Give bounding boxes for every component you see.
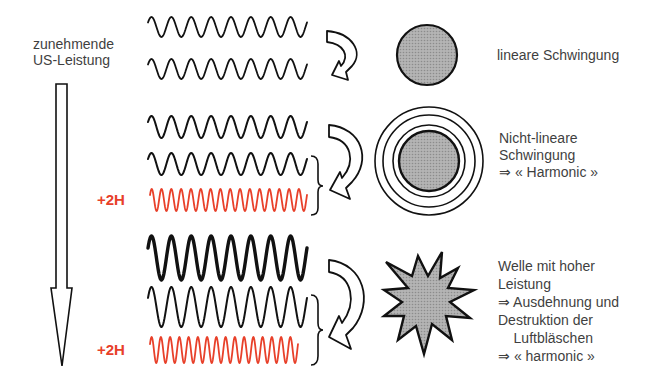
description-high-power-line1: Welle mit hoher [498, 258, 595, 274]
increasing-power-label-line1: zunehmende [33, 36, 114, 52]
fundamental-wave [148, 59, 307, 79]
description-high-power-line4: Destruktion der [498, 312, 593, 328]
curved-arrow-icon [327, 31, 357, 80]
fundamental-wave [148, 287, 307, 327]
ultrasound-harmonic-diagram: zunehmende US-Leistung +2H +2H lineare S… [0, 0, 665, 389]
brace-icon [311, 295, 323, 365]
waveforms [148, 17, 307, 363]
brace-icon [311, 156, 323, 215]
harmonic-label: +2H [97, 192, 125, 208]
description-nonlinear-line1: Nicht-lineare [499, 130, 578, 146]
harmonic-wave [150, 337, 298, 363]
fundamental-wave [148, 236, 307, 280]
bubble-linear-icon [397, 25, 457, 85]
description-linear: lineare Schwingung [497, 47, 619, 63]
harmonic-wave [150, 189, 307, 211]
fundamental-wave [148, 17, 307, 37]
description-high-power-line6: ⇒ « harmonic » [498, 348, 595, 364]
curved-arrow-icon [329, 260, 364, 349]
bubble-burst-starburst-icon [384, 252, 474, 354]
description-nonlinear-line2: Schwingung [499, 147, 575, 163]
description-nonlinear-line3: ⇒ « Harmonic » [499, 164, 598, 180]
increasing-power-label-line2: US-Leistung [33, 52, 110, 68]
fundamental-wave [148, 153, 307, 175]
description-high-power-line2: Leistung [498, 276, 551, 292]
curved-arrow-icon [329, 125, 362, 199]
harmonic-label: +2H [97, 342, 125, 358]
increasing-power-down-arrow-icon [51, 84, 72, 366]
description-high-power-line3: ⇒ Ausdehnung und [498, 294, 619, 310]
bubble-nonlinear-icon [375, 107, 483, 215]
description-high-power-line5: Luftbläschen [498, 330, 593, 346]
fundamental-wave [148, 116, 307, 138]
